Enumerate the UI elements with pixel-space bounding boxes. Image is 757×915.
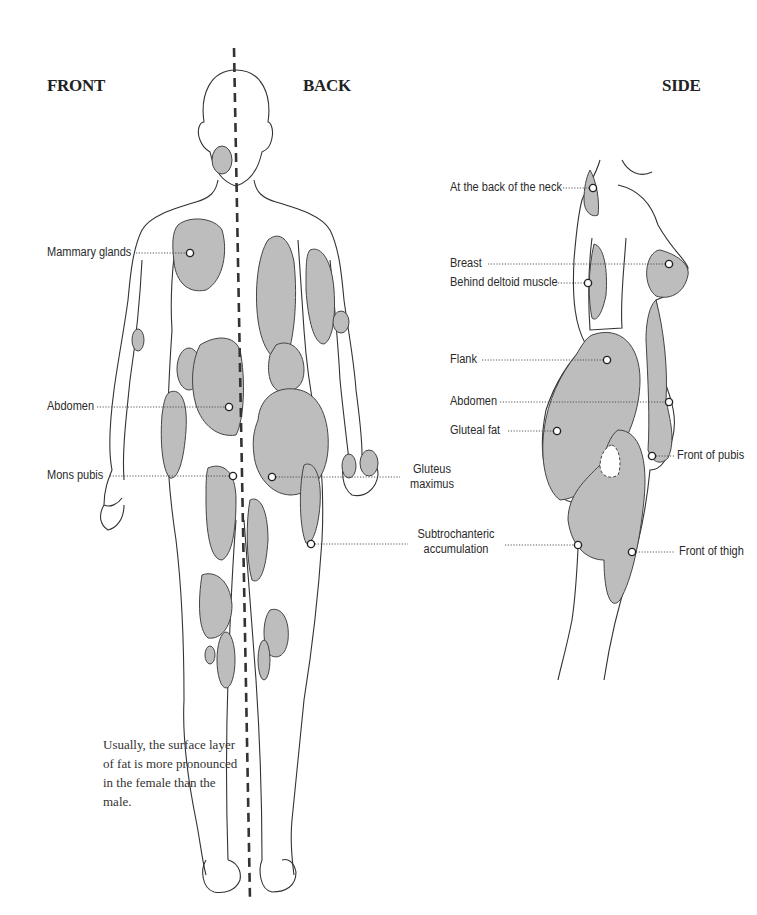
- left-foot: [203, 860, 241, 893]
- label-subtrochanteric: Subtrochanteric accumulation: [412, 527, 500, 557]
- label-gluteus-line2: maximus: [407, 477, 456, 492]
- caption-text: Usually, the surface layer of fat is mor…: [103, 735, 243, 811]
- label-side-abdomen: Abdomen: [450, 394, 497, 408]
- label-subtroch-line1: Subtrochanteric: [412, 527, 500, 542]
- fat-back-mid: [269, 343, 305, 392]
- fat-back-elbow: [333, 311, 349, 333]
- marker-subtroch-side: [574, 541, 581, 548]
- label-mons-pubis: Mons pubis: [47, 468, 103, 482]
- left-hand: [101, 505, 124, 530]
- fat-back-thigh-inner: [247, 499, 268, 581]
- right-foot: [260, 860, 296, 893]
- marker-flank: [603, 356, 610, 363]
- fat-thigh-front: [206, 466, 236, 560]
- marker-mons: [229, 472, 236, 479]
- fat-abdomen: [193, 338, 244, 435]
- fat-subtrochanteric: [300, 464, 320, 543]
- label-behind-deltoid: Behind deltoid muscle: [450, 275, 558, 289]
- fat-side-front-strip: [646, 300, 672, 462]
- marker-pubis: [648, 452, 655, 459]
- label-breast: Breast: [450, 256, 482, 270]
- left-arm-inner: [123, 260, 142, 480]
- fat-knee-front: [200, 574, 232, 638]
- marker-abdomen: [225, 403, 232, 410]
- marker-subtroch: [307, 540, 314, 547]
- label-gluteus-line1: Gluteus: [407, 462, 456, 477]
- marker-breast: [665, 260, 672, 267]
- label-abdomen: Abdomen: [47, 399, 94, 413]
- fat-back-hand-2: [360, 450, 378, 476]
- fat-hip-lower: [161, 391, 186, 478]
- fat-back-calf: [258, 640, 270, 680]
- label-gluteus-maximus: Gluteus maximus: [407, 462, 456, 492]
- marker-gluteal: [553, 427, 560, 434]
- marker-gluteus: [268, 473, 275, 480]
- fat-knee-low: [217, 632, 235, 688]
- marker-thigh: [628, 548, 635, 555]
- marker-side-abdomen: [665, 398, 672, 405]
- fat-arm-front: [132, 329, 144, 351]
- label-subtroch-line2: accumulation: [412, 542, 500, 557]
- marker-deltoid: [584, 279, 591, 286]
- fat-back-hand-1: [342, 454, 356, 478]
- fat-back-shoulder: [256, 236, 295, 361]
- label-gluteal-fat: Gluteal fat: [450, 423, 500, 437]
- marker-neck: [589, 184, 596, 191]
- label-front-of-thigh: Front of thigh: [679, 544, 744, 558]
- label-flank: Flank: [450, 352, 477, 366]
- label-front-of-pubis: Front of pubis: [677, 448, 744, 462]
- fat-side-breast: [647, 250, 689, 297]
- label-back-of-neck: At the back of the neck: [450, 180, 562, 194]
- fat-chin: [212, 146, 232, 174]
- fat-side-neck: [584, 170, 599, 216]
- marker-mammary: [186, 249, 193, 256]
- label-mammary-glands: Mammary glands: [47, 245, 131, 259]
- fat-knee-small-1: [205, 646, 215, 664]
- fat-mammary: [173, 219, 225, 291]
- side-head-fragment: [622, 160, 652, 174]
